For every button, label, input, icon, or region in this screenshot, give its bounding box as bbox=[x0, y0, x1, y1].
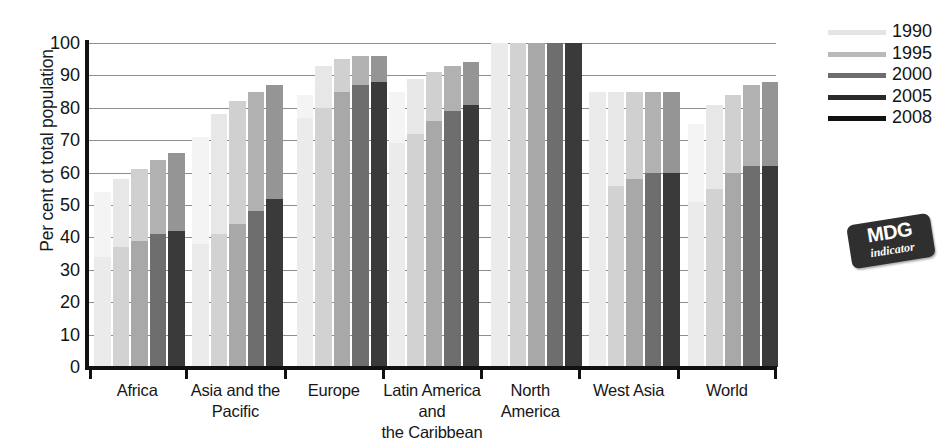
legend-label: 1995 bbox=[892, 43, 932, 64]
bar bbox=[491, 43, 508, 367]
bar-segment-lower bbox=[463, 105, 480, 367]
bar-segment-lower bbox=[645, 173, 662, 367]
bar bbox=[131, 169, 148, 367]
bar-group bbox=[678, 43, 776, 367]
bar-segment-upper bbox=[192, 137, 209, 244]
bar bbox=[547, 43, 564, 367]
bar-segment-lower bbox=[706, 189, 723, 367]
bar-segment-lower bbox=[407, 134, 424, 367]
bar-segment-lower bbox=[491, 43, 508, 367]
bar bbox=[94, 192, 111, 367]
bar bbox=[426, 72, 443, 367]
mdg-indicator-badge: MDG indicator bbox=[846, 213, 936, 270]
bar-segment-upper bbox=[762, 82, 779, 166]
x-axis-tick bbox=[284, 368, 287, 379]
bar-group bbox=[285, 43, 383, 367]
bar-segment-lower bbox=[762, 166, 779, 367]
legend-item[interactable]: 1990 bbox=[828, 22, 940, 44]
y-axis-tick-labels: 1009080706050403020100 bbox=[8, 0, 80, 443]
bar-segment-lower bbox=[297, 118, 314, 367]
x-axis-label-line: Pacific bbox=[176, 401, 294, 422]
bar-segment-lower bbox=[547, 43, 564, 367]
bar-segment-lower bbox=[192, 244, 209, 367]
bar bbox=[510, 43, 527, 367]
bar bbox=[626, 92, 643, 367]
x-axis-tick bbox=[774, 368, 777, 379]
bar-group bbox=[383, 43, 481, 367]
bar-segment-upper bbox=[688, 124, 705, 202]
x-axis-tick bbox=[677, 368, 680, 379]
legend-label: 1990 bbox=[892, 21, 932, 42]
bar-segment-upper bbox=[266, 85, 283, 198]
legend-item[interactable]: 1995 bbox=[828, 44, 940, 66]
bar-group bbox=[579, 43, 677, 367]
bar-segment-upper bbox=[706, 105, 723, 189]
bar-segment-lower bbox=[352, 85, 369, 367]
x-axis-label: World bbox=[668, 380, 786, 401]
bar bbox=[762, 82, 779, 367]
legend-label: 2008 bbox=[892, 107, 932, 128]
bar-segment-lower bbox=[168, 231, 185, 367]
bar-segment-lower bbox=[94, 257, 111, 367]
bar-segment-lower bbox=[229, 224, 246, 367]
bar-segment-lower bbox=[248, 211, 265, 367]
bar-segment-lower bbox=[315, 108, 332, 367]
bar-segment-lower bbox=[626, 179, 643, 367]
bar bbox=[743, 85, 760, 367]
bar bbox=[688, 124, 705, 367]
bar bbox=[192, 137, 209, 367]
bar-segment-upper bbox=[315, 66, 332, 108]
y-axis-tick-label: 10 bbox=[10, 326, 80, 344]
bar-segment-upper bbox=[725, 95, 742, 173]
y-axis-tick-label: 60 bbox=[10, 164, 80, 182]
legend-item[interactable]: 2005 bbox=[828, 87, 940, 109]
bar-segment-lower bbox=[589, 92, 606, 367]
y-axis-tick-label: 40 bbox=[10, 228, 80, 246]
legend-swatch bbox=[828, 52, 886, 57]
legend-item[interactable]: 2008 bbox=[828, 108, 940, 130]
x-axis-tick bbox=[578, 368, 581, 379]
legend-label: 2000 bbox=[892, 64, 932, 85]
bar-segment-upper bbox=[131, 169, 148, 240]
bar-segment-upper bbox=[94, 192, 111, 257]
x-axis-tick bbox=[382, 368, 385, 379]
bar-segment-upper bbox=[168, 153, 185, 231]
bar-segment-upper bbox=[150, 160, 167, 235]
bar-segment-lower bbox=[528, 43, 545, 367]
legend-item[interactable]: 2000 bbox=[828, 65, 940, 87]
bar bbox=[266, 85, 283, 367]
bar bbox=[645, 92, 662, 367]
y-axis-line bbox=[85, 40, 89, 370]
y-axis-tick-label: 50 bbox=[10, 196, 80, 214]
bar-segment-lower bbox=[743, 166, 760, 367]
x-axis-tick bbox=[480, 368, 483, 379]
bar bbox=[608, 92, 625, 367]
bar-segment-upper bbox=[608, 92, 625, 186]
bar-segment-lower bbox=[389, 143, 406, 367]
bar-segment-lower bbox=[334, 92, 351, 367]
bar-segment-upper bbox=[229, 101, 246, 224]
bar-segment-lower bbox=[608, 186, 625, 367]
bar-group bbox=[88, 43, 186, 367]
bar-segment-lower bbox=[725, 173, 742, 367]
legend-label: 2005 bbox=[892, 86, 932, 107]
y-axis-tick-label: 0 bbox=[10, 358, 80, 376]
bar-group bbox=[481, 43, 579, 367]
bar bbox=[113, 179, 130, 367]
bar-segment-lower bbox=[266, 199, 283, 367]
x-axis-tick bbox=[185, 368, 188, 379]
bar-groups bbox=[88, 43, 776, 367]
bar-segment-upper bbox=[352, 56, 369, 85]
bar-segment-lower bbox=[426, 121, 443, 367]
bar bbox=[315, 66, 332, 367]
y-axis-tick-label: 80 bbox=[10, 99, 80, 117]
legend-swatch bbox=[828, 116, 886, 121]
x-axis-tick bbox=[89, 368, 92, 379]
bar-segment-lower bbox=[510, 43, 527, 367]
bar bbox=[444, 66, 461, 367]
bar bbox=[297, 95, 314, 367]
bar bbox=[589, 92, 606, 367]
bar bbox=[352, 56, 369, 367]
bar bbox=[229, 101, 246, 367]
bar-group bbox=[186, 43, 284, 367]
